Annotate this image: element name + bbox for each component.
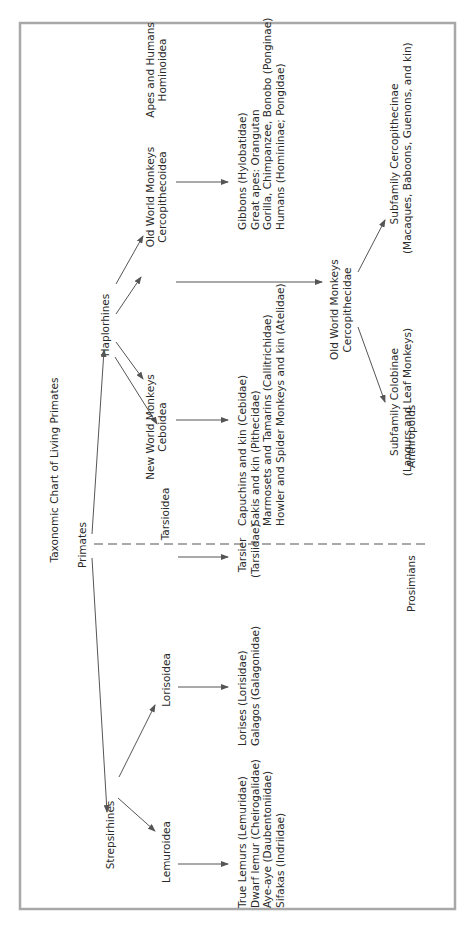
text-line: Anthropoids: [405, 405, 418, 468]
taxonomy-diagram: Taxonomic Chart of Living Primates Prima…: [0, 0, 471, 932]
node-subfamily-cercopithecinae: Subfamily Cercopithecinae(Macaques, Babo…: [388, 54, 413, 254]
text-line: Marmosets and Tamarins (Callitrichidae): [261, 283, 274, 526]
arrow-primates-strepsirhines: [92, 558, 107, 812]
text-line: Cercopithecidae: [341, 260, 354, 360]
node-ceboidea-line2: Ceboidea: [156, 402, 168, 451]
arrow-haplorhines-ceboidea: [116, 342, 143, 379]
node-ceboidea-line1: New World Monkeys: [144, 374, 156, 480]
text-line: (Tarsiidae): [249, 532, 262, 578]
text-line: Tarsier: [236, 532, 249, 578]
text-line: Sakis and kin (Pithecidae): [249, 283, 262, 526]
arrow-haplorhines-cercopithecoidea: [116, 277, 141, 314]
families-lorisoidea: Lorises (Lorisidae)Galagos (Galagonidae): [236, 626, 261, 746]
text-line: Great apes: Orangutan: [249, 18, 262, 230]
text-line: (Macaques, Baboons, Guenons, and kin): [401, 54, 414, 254]
node-strepsirhines: Strepsirhines: [104, 801, 116, 870]
text-line: Howler and Spider Monkeys and kin (Ateli…: [274, 283, 287, 526]
arrow-haplorhines-hominoidea: [116, 236, 143, 284]
node-cercopithecoidea-line2: Cercopithecoidea: [156, 151, 168, 243]
node-tarsioidea: Tarsioidea: [159, 488, 171, 542]
arrow-cercopithecidae-cercopithecinae: [358, 220, 385, 272]
text-line: Galagos (Galagonidae): [249, 626, 262, 746]
text-line: Sifakas (Indriidae): [274, 759, 287, 908]
node-lorisoidea: Lorisoidea: [160, 653, 172, 707]
families-lemuroidea: True Lemurs (Lemuridae)Dwarf lemur (Chei…: [236, 759, 286, 908]
text-line: Dwarf lemur (Cheirogalidae): [249, 759, 262, 908]
arrow-strepsirhines-lemuroidea: [118, 798, 155, 831]
text-line: Gorilla, Chimpanzee, Bonobo (Ponginae): [261, 18, 274, 230]
node-haplorhines: Haplorhines: [99, 294, 111, 357]
text-line: True Lemurs (Lemuridae): [236, 759, 249, 908]
text-line: Aye-aye (Daubentoniidae): [261, 759, 274, 908]
families-ceboidea: Capuchins and kin (Cebidae)Sakis and kin…: [236, 283, 286, 526]
arrow-primates-haplorhines: [92, 350, 104, 534]
text-line: Gibbons (Hylobatidae): [236, 18, 249, 230]
text-line: Humans (Homininae; Pongidae): [274, 18, 287, 230]
diagram-title: Taxonomic Chart of Living Primates: [48, 377, 60, 563]
label-anthropoids: Anthropoids: [405, 405, 418, 468]
arrow-cercopithecidae-colobinae: [358, 327, 385, 402]
node-cercopithecoidea-line1: Old World Monkeys: [144, 147, 156, 248]
node-primates: Primates: [76, 522, 88, 568]
text-line: Old World Monkeys: [328, 260, 341, 360]
node-lemuroidea: Lemuroidea: [160, 821, 172, 883]
text-line: Subfamily Cercopithecinae: [388, 54, 401, 254]
node-hominoidea-line2: Hominoidea: [156, 38, 168, 101]
text-line: Lorises (Lorisidae): [236, 626, 249, 746]
node-cercopithecidae: Old World MonkeysCercopithecidae: [328, 260, 353, 360]
label-prosimians: Prosimians: [405, 555, 418, 612]
text-line: Prosimians: [405, 555, 418, 612]
arrow-strepsirhines-lorisoidea: [119, 705, 155, 777]
text-line: Subfamily Colobinae: [388, 327, 401, 477]
families-tarsioidea: Tarsier(Tarsiidae): [236, 532, 261, 578]
text-line: Capuchins and kin (Cebidae): [236, 283, 249, 526]
node-hominoidea-line1: Apes and Humans: [144, 22, 156, 118]
families-hominoidea: Gibbons (Hylobatidae)Great apes: Orangut…: [236, 18, 286, 230]
